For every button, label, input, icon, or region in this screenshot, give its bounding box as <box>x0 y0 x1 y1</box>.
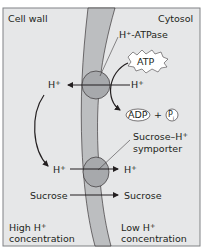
h-ion-cell-wall-top: H+ <box>48 79 61 90</box>
h-atpase-label: H⁺-ATPase <box>119 29 168 40</box>
high-h-label-line2: concentration <box>9 233 75 244</box>
h-ion-cytosol-bottom: H+ <box>124 164 137 175</box>
sucrose-cytosol-label: Sucrose <box>124 190 162 201</box>
symporter-label-line2: symporter <box>133 143 182 154</box>
symporter-label-line1: Sucrose–H+ <box>133 131 188 142</box>
cell-wall-label: Cell wall <box>8 13 48 24</box>
proton-sucrose-transport-diagram <box>0 0 205 252</box>
low-h-label-line1: Low H+ <box>121 222 155 233</box>
sucrose-cell-wall-label: Sucrose <box>30 190 68 201</box>
plus-label: + <box>154 109 162 120</box>
symporter-protein <box>83 157 109 187</box>
low-h-label-line2: concentration <box>121 233 187 244</box>
cytosol-label: Cytosol <box>158 13 193 24</box>
h-ion-cytosol-top: H+ <box>131 79 144 90</box>
adp-label: ADP <box>128 109 148 120</box>
high-h-label-line1: High H+ <box>9 222 46 233</box>
h-ion-cell-wall-bottom: H+ <box>53 164 66 175</box>
pi-label: Pi <box>168 109 174 124</box>
atp-label: ATP <box>137 56 154 67</box>
